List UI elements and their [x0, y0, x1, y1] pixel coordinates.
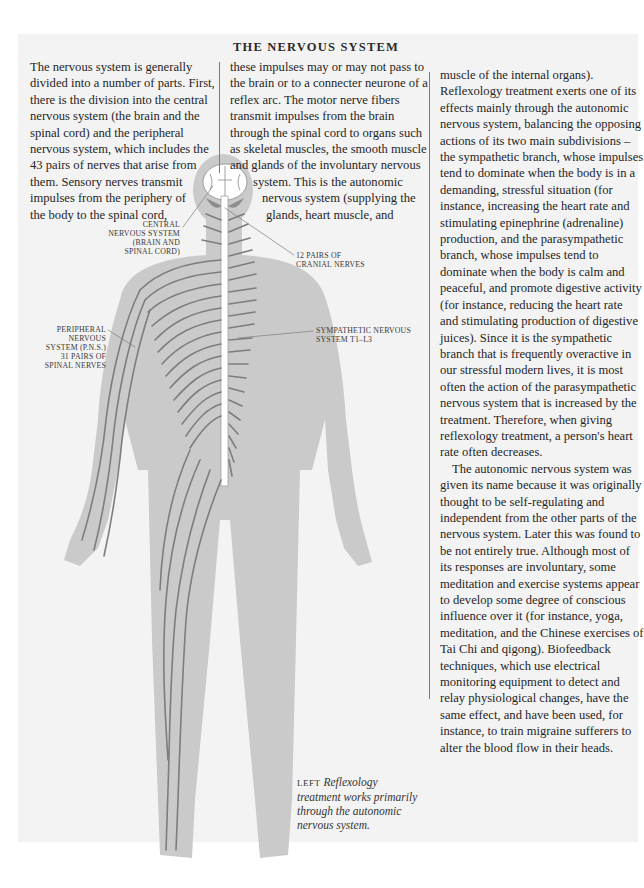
text-line: influence over it (for instance, yoga, [440, 608, 632, 624]
label-line: 31 PAIRS OF [40, 352, 106, 361]
text-line: to develop some degree of conscious [440, 592, 632, 608]
text-line: transmit impulses from the brain [230, 108, 430, 124]
body-column-3: muscle of the internal organs). Reflexol… [440, 67, 632, 756]
label-central-nervous-system: CENTRAL NERVOUS SYSTEM (BRAIN AND SPINAL… [70, 220, 180, 256]
text-line: branch, whose impulses tend to [440, 247, 632, 263]
text-line: system. This is the autonomic [230, 174, 430, 190]
text-line: branch that is frequently overactive in [440, 346, 632, 362]
caption-text: treatment works primarily [297, 790, 437, 804]
text-line: alter the blood flow in their heads. [440, 740, 632, 756]
text-line: rate often decreases. [440, 444, 632, 460]
text-line: Reflexology treatment exerts one of its [440, 83, 632, 99]
text-line: 43 pairs of nerves that arise from [30, 157, 220, 173]
text-line: juices). Since it is the sympathetic [440, 330, 632, 346]
text-line: nervous system, balancing the opposing [440, 116, 632, 132]
caption-text: through the autonomic [297, 804, 437, 818]
label-peripheral-nervous-system: PERIPHERAL NERVOUS SYSTEM (P.N.S.) 31 PA… [40, 325, 106, 370]
text-line: through the spinal cord to organs such [230, 125, 430, 141]
text-line: instance, increasing the heart rate and [440, 198, 632, 214]
label-line: (BRAIN AND [70, 238, 180, 247]
text-line: the brain or to a connecter neurone of a [230, 75, 430, 91]
text-line: (for instance, reducing the heart rate [440, 297, 632, 313]
text-line: them. Sensory nerves transmit [30, 174, 220, 190]
column-rule-1 [219, 62, 220, 173]
text-line: stimulating epinephrine (adrenaline) [440, 215, 632, 231]
text-line: nervous system, which includes the [30, 141, 220, 157]
text-line: monitoring equipment to detect and [440, 674, 632, 690]
text-line: its responses are involuntary, some [440, 559, 632, 575]
text-line: independent from the other parts of the [440, 510, 632, 526]
label-line: SPINAL NERVES [40, 361, 106, 370]
text-line: techniques, which use electrical [440, 658, 632, 674]
text-line: The nervous system is generally [30, 59, 220, 75]
label-line: SPINAL CORD) [70, 247, 180, 256]
figure-caption: LEFT Reflexology treatment works primari… [297, 775, 437, 832]
caption-text: Reflexology [323, 776, 377, 788]
text-line: nervous system (supplying the [230, 190, 430, 206]
text-line: nervous system (the brain and the [30, 108, 220, 124]
caption-text: nervous system. [297, 818, 437, 832]
text-line: The autonomic nervous system was [440, 461, 632, 477]
text-line: effects mainly through the autonomic [440, 100, 632, 116]
text-line: as skeletal muscles, the smooth muscle [230, 141, 430, 157]
label-line: 12 PAIRS OF [296, 251, 365, 260]
text-line: peaceful, and promote digestive activity [440, 280, 632, 296]
text-line: treatment. Therefore, when giving [440, 412, 632, 428]
label-line: SYSTEM (P.N.S.) [40, 343, 106, 352]
label-line: SYSTEM T1–L3 [316, 335, 411, 344]
text-line: relay physiological changes, have the [440, 690, 632, 706]
text-line: reflexology treatment, a person's heart [440, 428, 632, 444]
column-rule-2 [429, 72, 430, 699]
text-line: tend to dominate when the body is in a [440, 165, 632, 181]
text-line: the sympathetic branch, whose impulses [440, 149, 632, 165]
text-line: thought to be self-regulating and [440, 494, 632, 510]
label-line: SYMPATHETIC NERVOUS [316, 326, 411, 335]
text-line: Tai Chi and qigong). Biofeedback [440, 641, 632, 657]
text-line: divided into a number of parts. First, [30, 75, 220, 91]
text-line: meditation and exercise systems appear [440, 576, 632, 592]
text-line: actions of its two main subdivisions – [440, 133, 632, 149]
label-cranial-nerves: 12 PAIRS OF CRANIAL NERVES [296, 251, 365, 269]
text-line: glands, heart muscle, and [230, 207, 430, 223]
label-line: CENTRAL [70, 220, 180, 229]
caption-lead: LEFT [297, 778, 321, 788]
text-line: same effect, and have been used, for [440, 707, 632, 723]
label-line: NERVOUS SYSTEM [70, 229, 180, 238]
text-line: these impulses may or may not pass to [230, 59, 430, 75]
label-line: CRANIAL NERVES [296, 260, 365, 269]
text-line: demanding, stressful situation (for [440, 182, 632, 198]
text-line: dominate when the body is calm and [440, 264, 632, 280]
text-line: reflex arc. The motor nerve fibers [230, 92, 430, 108]
label-sympathetic-nervous-system: SYMPATHETIC NERVOUS SYSTEM T1–L3 [316, 326, 411, 344]
text-line: instance, to train migraine sufferers to [440, 723, 632, 739]
label-line: PERIPHERAL [40, 325, 106, 334]
text-line: meditation, and the Chinese exercises of [440, 625, 632, 641]
text-line: often the action of the parasympathetic [440, 379, 632, 395]
text-line: muscle of the internal organs). [440, 67, 632, 83]
text-line: be not entirely true. Although most of [440, 543, 632, 559]
text-line: spinal cord) and the peripheral [30, 125, 220, 141]
text-line: given its name because it was originally [440, 477, 632, 493]
text-line: our stressful modern lives, it is most [440, 362, 632, 378]
page-title: THE NERVOUS SYSTEM [0, 40, 632, 55]
text-line: and stimulating production of digestive [440, 313, 632, 329]
body-column-2: these impulses may or may not pass to th… [230, 59, 430, 223]
text-line: production, and the parasympathetic [440, 231, 632, 247]
text-line: there is the division into the central [30, 92, 220, 108]
text-line: and glands of the involuntary nervous [230, 157, 430, 173]
body-column-1: The nervous system is generally divided … [30, 59, 220, 223]
text-line: nervous system that is increased by the [440, 395, 632, 411]
label-line: NERVOUS [40, 334, 106, 343]
text-line: nervous system. Later this was found to [440, 526, 632, 542]
text-line: impulses from the periphery of [30, 190, 220, 206]
